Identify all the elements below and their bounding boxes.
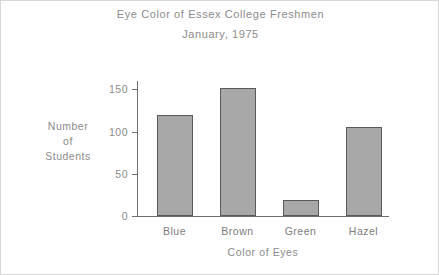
x-tick-label-green: Green: [285, 225, 317, 237]
y-tick-mark: [132, 216, 138, 217]
y-axis-label-line-2: of: [25, 134, 111, 149]
bar-hazel: [346, 127, 382, 216]
y-axis-label: Number of Students: [25, 119, 111, 164]
chart-subtitle: January, 1975: [1, 28, 439, 40]
y-tick-mark: [132, 174, 138, 175]
bar-green: [283, 200, 319, 216]
y-tick-mark: [132, 89, 138, 90]
y-axis-line: [137, 81, 138, 217]
chart-title: Eye Color of Essex College Freshmen: [1, 8, 439, 20]
y-tick-label: 50: [115, 168, 128, 180]
y-tick-label: 150: [109, 83, 128, 95]
x-tick-label-blue: Blue: [163, 225, 186, 237]
y-axis-label-line-3: Students: [25, 149, 111, 164]
y-axis-label-line-1: Number: [25, 119, 111, 134]
x-axis-label: Color of Eyes: [137, 246, 389, 258]
chart-figure: Eye Color of Essex College Freshmen Janu…: [0, 0, 439, 275]
bar-brown: [220, 88, 256, 216]
bar-blue: [157, 115, 193, 216]
y-tick-label: 100: [109, 126, 128, 138]
y-tick-label: 0: [122, 210, 128, 222]
x-tick-label-brown: Brown: [221, 225, 253, 237]
y-tick-mark: [132, 132, 138, 133]
x-axis-line: [137, 216, 389, 217]
x-tick-label-hazel: Hazel: [349, 225, 378, 237]
plot-area: 050100150 BlueBrownGreenHazel: [137, 81, 389, 217]
